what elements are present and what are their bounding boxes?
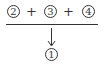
circled-number-4: 4: [82, 5, 95, 18]
plus-operator: +: [63, 5, 73, 18]
circled-number-3: 3: [44, 5, 57, 18]
down-arrow-icon: [47, 28, 56, 47]
circled-number-1: 1: [45, 48, 58, 61]
plus-operator: +: [26, 5, 36, 18]
circled-number-2: 2: [7, 5, 20, 18]
divider-line: [6, 24, 98, 25]
